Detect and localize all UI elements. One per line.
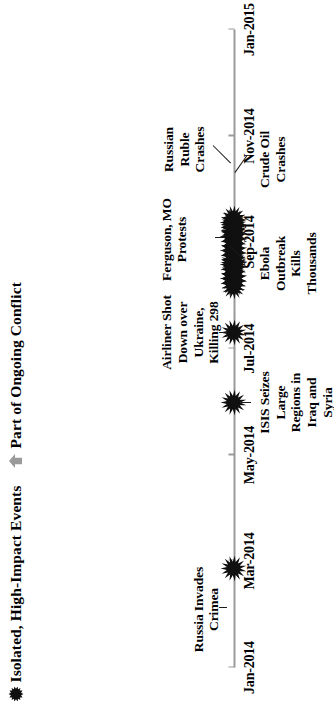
leader-line [241,402,251,403]
leader-line [215,237,225,238]
legend-label-ongoing-conflict: Part of Ongoing Conflict [6,282,24,448]
axis-tick [228,134,234,135]
axis-tick [228,28,234,29]
axis-tick [228,666,234,667]
starburst-icon [8,686,23,701]
legend-item-ongoing-conflict: Part of Ongoing Conflict [6,282,24,469]
event-label-russia-invades-crimea: Russia Invades Crimea [190,566,221,651]
leader-line [212,145,231,164]
event-label-crude-oil-crashes: Crude Oil Crashes [256,130,287,187]
axis-tick-label: Nov-2014 [241,108,257,163]
legend: Isolated, High-Impact Events Part of Ong… [6,282,24,701]
event-marker-0 [220,555,246,581]
axis-tick [228,347,234,348]
axis-tick-label: May-2014 [241,425,257,483]
event-label-isis-seizes: ISIS Seizes Large Regions in Iraq and Sy… [256,371,334,433]
event-label-airliner-shot-down: Airliner Shot Down over Ukraine, Killing… [158,295,221,370]
event-label-russian-ruble-crashes: Russian Ruble Crashes [160,126,207,172]
conflict-cluster-marker [221,205,245,229]
axis-tick-label: Jan-2014 [241,641,257,694]
axis-tick [228,453,234,454]
event-label-ferguson-protests: Ferguson, MO Protests [158,198,189,281]
up-arrow-icon [8,452,22,469]
legend-item-isolated-events: Isolated, High-Impact Events [6,485,24,701]
axis-tick-label: Jan-2015 [241,3,257,56]
event-label-ebola-outbreak: Ebola Outbreak Kills Thousands [256,232,319,294]
legend-label-isolated-events: Isolated, High-Impact Events [6,485,24,682]
